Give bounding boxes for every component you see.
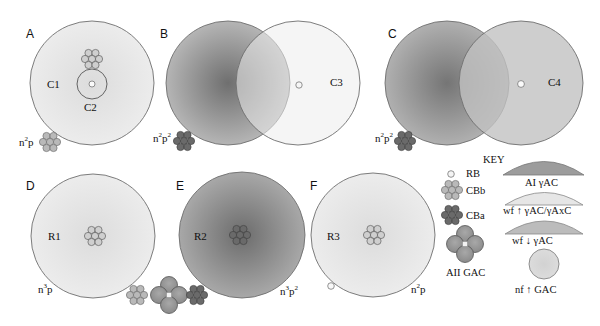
key-item-cbb: CBb [466, 185, 485, 196]
rb-icon [328, 283, 335, 290]
cba-cluster-icon [173, 131, 194, 150]
cbb-cluster-icon [126, 285, 147, 304]
arc-light-icon [505, 193, 583, 206]
region-label-c3: C3 [330, 76, 343, 88]
rb-icon [518, 81, 525, 88]
region-label-r2: R2 [194, 230, 207, 242]
key-field-wf-up: wf ↑ γAC/γAxC [503, 205, 571, 216]
genotype-label-e: n3p2 [280, 284, 299, 297]
key-item-cba: CBa [466, 210, 485, 221]
genotype-label-b: n2p2 [153, 131, 172, 144]
key-field-wf-down: wf ↓ γAC [512, 235, 553, 246]
key-title: KEY [483, 154, 505, 165]
panel-a: A C1 C2 n2p [19, 21, 154, 152]
genotype-label-a: n2p [19, 135, 34, 148]
aii-gac-cluster-icon [151, 277, 188, 314]
panel-label-e: E [176, 179, 184, 193]
panel-e: E R2 n3p2 [176, 172, 305, 298]
cell-chain [126, 277, 207, 314]
genotype-label-d: n3p [38, 282, 53, 295]
cba-cluster-icon [186, 285, 207, 304]
cbb-cluster-icon [39, 132, 60, 151]
region-label-r3: R3 [327, 230, 340, 242]
circle-field-icon [529, 249, 559, 279]
key-field-nf-up: nf ↑ GAC [515, 284, 556, 295]
region-label-c2: C2 [84, 101, 97, 113]
panel-label-b: B [160, 27, 168, 41]
region-label-c4: C4 [548, 76, 561, 88]
panel-label-a: A [26, 27, 34, 41]
arc-dark-icon [503, 162, 584, 176]
region-label-c1: C1 [47, 78, 60, 90]
panel-label-c: C [388, 27, 397, 41]
rb-icon [448, 171, 455, 178]
panel-d: D R1 n3p [26, 174, 155, 298]
rb-icon [296, 82, 302, 88]
genotype-label-c: n2p2 [375, 131, 394, 144]
panel-f: F R3 n2p [310, 173, 435, 297]
key-legend: KEY RB CBb CBa AII GAC AI γAC wf ↑ γAC/γ… [441, 154, 584, 295]
region-label-r1: R1 [48, 230, 61, 242]
key-field-ai-yac: AI γAC [525, 177, 558, 188]
key-item-rb: RB [466, 168, 480, 179]
rb-icon [89, 81, 95, 87]
cbb-cluster-icon [441, 180, 462, 199]
aii-gac-cluster-icon [447, 226, 484, 263]
cba-cluster-icon [441, 205, 462, 224]
genotype-label-f: n2p [411, 282, 426, 295]
panel-c: C C4 n2p2 [375, 21, 583, 151]
panel-label-f: F [310, 179, 317, 193]
panel-label-d: D [26, 179, 35, 193]
retinal-receptive-field-diagram: A C1 C2 n2p B C3 n2p2 C C4 n2p2 D R1 n3p [0, 0, 600, 326]
arc-medium-icon [505, 221, 583, 234]
panel-b: B C3 n2p2 [153, 21, 360, 151]
key-item-aii-gac: AII GAC [446, 267, 485, 278]
